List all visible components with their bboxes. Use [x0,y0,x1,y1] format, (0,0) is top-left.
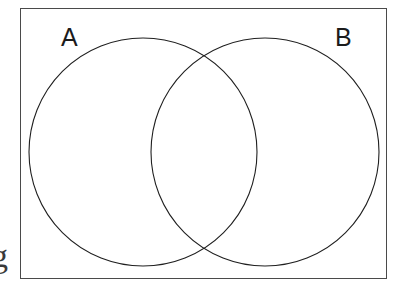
venn-diagram-figure: A B g [0,0,393,287]
set-label-b: B [335,25,352,50]
set-label-a: A [61,25,78,50]
cropped-edge-glyph: g [0,236,9,282]
